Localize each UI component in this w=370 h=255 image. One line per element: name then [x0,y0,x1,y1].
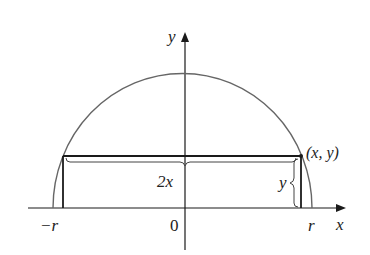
height-label: y [277,173,287,192]
width-label: 2x [157,172,174,191]
width-brace [66,158,296,166]
y-axis-arrow-icon [181,32,189,42]
pos-r-label: r [308,216,315,235]
semicircle-curve [53,73,312,208]
x-axis-label: x [335,215,344,234]
x-axis-arrow-icon [336,204,346,212]
corner-point [299,154,303,158]
y-axis-label: y [166,27,176,46]
diagram-svg: y x 0 −r r (x, y) 2x y [0,0,370,255]
point-label: (x, y) [306,144,339,162]
y-axis [181,32,189,250]
inscribed-rectangle [63,156,302,208]
height-brace [290,159,298,207]
x-axis [28,204,346,212]
semicircle-rectangle-diagram: y x 0 −r r (x, y) 2x y [0,0,370,255]
origin-label: 0 [170,216,179,235]
neg-r-label: −r [40,216,58,235]
